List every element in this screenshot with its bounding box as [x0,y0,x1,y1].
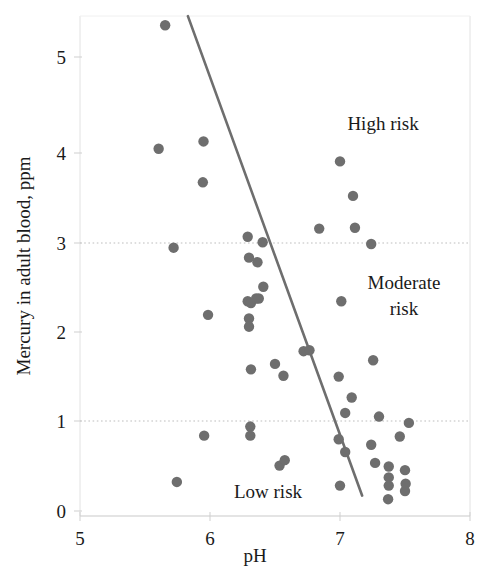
data-point [246,364,256,374]
data-point [270,359,280,369]
data-point [400,486,410,496]
x-tick-label: 8 [465,528,475,549]
data-point [336,296,346,306]
data-point [400,465,410,475]
data-point [304,345,314,355]
data-point [278,371,288,381]
data-point [340,408,350,418]
data-point [244,321,254,331]
data-point [203,310,213,320]
data-point [172,477,182,487]
reference-gridlines [80,243,470,421]
y-tick-label: 0 [57,501,67,522]
data-point [334,434,344,444]
data-point [314,223,324,233]
data-point [199,430,209,440]
zone-label-moderate-risk: Moderate [368,272,441,293]
data-point [340,447,350,457]
y-tick-label: 1 [57,411,67,432]
y-tick-label: 2 [57,322,67,343]
x-tick-label: 7 [335,528,345,549]
data-point [384,480,394,490]
data-point [335,480,345,490]
data-point [366,440,376,450]
data-point [258,282,268,292]
data-point [384,461,394,471]
y-tick-labels: 5 4 3 2 1 0 [57,47,67,522]
x-tick-label: 6 [205,528,215,549]
data-point [243,232,253,242]
data-point [245,430,255,440]
x-axis-title: pH [243,545,267,566]
data-point [395,431,405,441]
data-point [153,144,163,154]
data-point [198,177,208,187]
plot-frame [80,16,470,516]
data-point [366,239,376,249]
zone-label-moderate-risk-2: risk [390,298,419,319]
trend-line [188,16,362,495]
data-point [254,293,264,303]
data-point [257,237,267,247]
x-tick-labels: 5 6 7 8 [75,528,475,549]
scatter-plot-svg: 5 4 3 2 1 0 5 6 7 8 pH Mercury in adult … [0,0,502,571]
y-tick-label: 4 [57,143,67,164]
data-point [160,20,170,30]
zone-label-high-risk: High risk [347,113,419,134]
zone-label-low-risk: Low risk [234,481,303,502]
data-point [252,257,262,267]
data-point [368,355,378,365]
y-tick-label: 5 [57,47,67,68]
data-point [404,418,414,428]
data-point [374,411,384,421]
data-point [245,421,255,431]
data-point [370,458,380,468]
data-point [347,392,357,402]
data-point [280,455,290,465]
data-point [198,136,208,146]
data-point [348,191,358,201]
y-axis-ticks [74,57,82,511]
scatter-points [153,20,414,504]
data-point [335,156,345,166]
data-point [350,223,360,233]
chart-figure: 5 4 3 2 1 0 5 6 7 8 pH Mercury in adult … [0,0,502,571]
data-point [383,494,393,504]
y-tick-label: 3 [57,233,67,254]
x-tick-label: 5 [75,528,85,549]
data-point [334,371,344,381]
y-axis-title: Mercury in adult blood, ppm [13,156,34,375]
data-point [168,242,178,252]
